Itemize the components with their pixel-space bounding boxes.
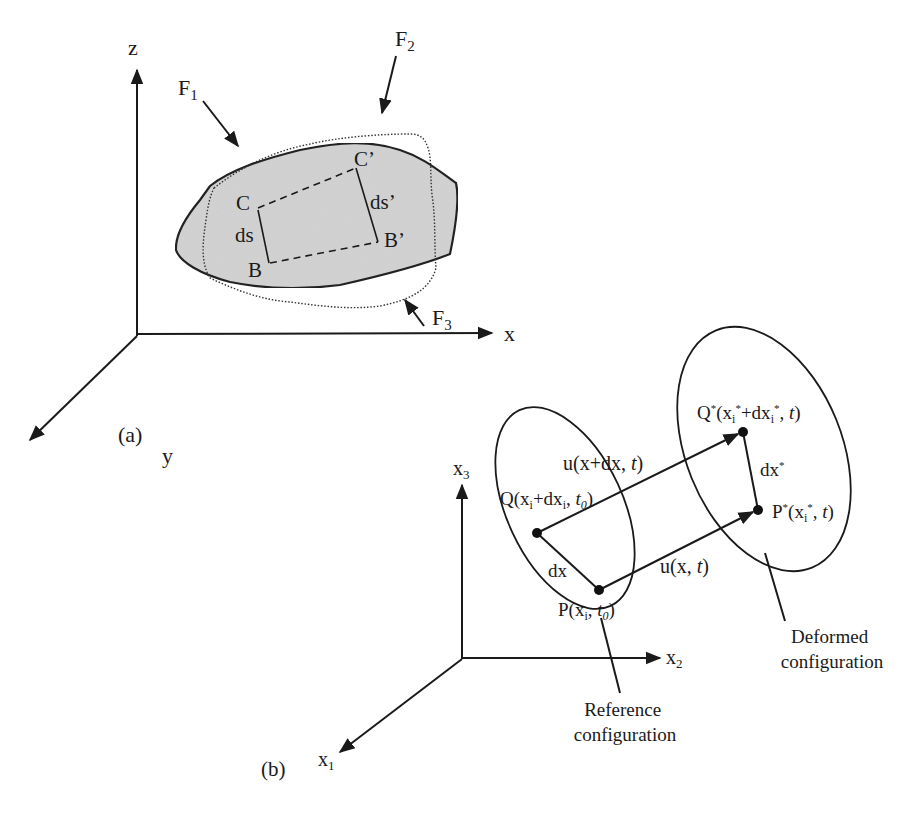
deformed-configuration-label: Deformed configuration bbox=[781, 626, 884, 672]
point-C-label: C bbox=[236, 191, 250, 215]
reference-configuration-label: Reference configuration bbox=[574, 699, 677, 745]
reference-callout-line bbox=[601, 618, 620, 693]
point-P-star bbox=[753, 505, 763, 515]
x-axis-label: x bbox=[504, 321, 515, 346]
deformation-diagram: z x y (a) C B C’ B’ ds ds’ F1 F2 bbox=[0, 0, 919, 817]
u-x-dx-label: u(x+dx, t) bbox=[563, 452, 643, 475]
ds-label: ds bbox=[235, 223, 254, 247]
point-C-prime-label: C’ bbox=[354, 147, 375, 171]
dx-star-segment bbox=[743, 432, 758, 510]
x-axis bbox=[137, 333, 492, 334]
force-F3-arrow bbox=[405, 300, 424, 326]
x2-axis-label: x2 bbox=[666, 646, 683, 671]
force-F2-label: F2 bbox=[395, 26, 415, 54]
panel-a-caption: (a) bbox=[118, 422, 142, 447]
y-axis-label: y bbox=[162, 443, 173, 468]
dx-label: dx bbox=[548, 560, 568, 581]
panel-b: x3 x2 x1 (b) Q(xi+dxi, t0) bbox=[261, 301, 884, 781]
deformed-configuration-ellipse bbox=[644, 301, 885, 597]
x1-axis-label: x1 bbox=[318, 748, 335, 773]
point-Q bbox=[532, 528, 542, 538]
panel-a: z x y (a) C B C’ B’ ds ds’ F1 F2 bbox=[30, 26, 515, 468]
ds-prime-label: ds’ bbox=[370, 190, 396, 214]
x3-axis-label: x3 bbox=[453, 457, 470, 482]
u-x-label: u(x, t) bbox=[660, 555, 709, 578]
point-Q-star bbox=[738, 427, 748, 437]
u-x-dx-vector bbox=[537, 434, 738, 533]
force-F3-label: F3 bbox=[432, 305, 452, 333]
force-F1-arrow bbox=[203, 101, 238, 146]
u-x-vector bbox=[599, 512, 753, 590]
dx-star-label: dx* bbox=[760, 459, 785, 480]
point-B-label: B bbox=[248, 258, 262, 282]
z-axis-label: z bbox=[128, 35, 138, 60]
point-Q-label: Q(xi+dxi, t0) bbox=[500, 488, 593, 512]
point-P-label: P(xi, t0) bbox=[558, 599, 615, 623]
point-P bbox=[594, 585, 604, 595]
panel-b-caption: (b) bbox=[261, 757, 286, 781]
point-Q-star-label: Q*(xi*+dxi*, t) bbox=[697, 402, 801, 426]
force-F1-label: F1 bbox=[178, 75, 198, 103]
force-F2-arrow bbox=[382, 56, 396, 113]
point-B-prime-label: B’ bbox=[384, 228, 405, 252]
body-shape bbox=[176, 143, 458, 288]
x1-axis bbox=[340, 659, 462, 752]
deformed-callout-line bbox=[765, 553, 785, 621]
point-P-star-label: P*(xi*, t) bbox=[772, 501, 834, 525]
